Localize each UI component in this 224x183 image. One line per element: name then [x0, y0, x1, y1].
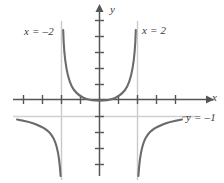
x-axis-label: x: [212, 92, 217, 103]
curve-left-branch: [17, 120, 61, 177]
asymptote-label-x-neg2: x = –2: [24, 26, 54, 37]
curve-right-branch: [138, 120, 182, 177]
asymptote-label-y-neg1: y = –1: [186, 112, 216, 123]
y-axis-arrowhead: [96, 4, 104, 12]
asymptote-label-x-pos2: x = 2: [142, 25, 166, 36]
y-axis-label: y: [110, 4, 115, 15]
graph-figure: x = –2 x = 2 y = –1 x y: [0, 0, 224, 183]
